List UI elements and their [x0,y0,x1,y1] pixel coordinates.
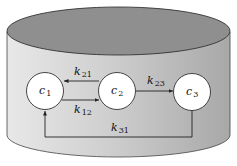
compartment-diagram: c1 c2 c3 k21 k12 k23 k31 [0,0,237,166]
cylinder-top [7,7,230,55]
